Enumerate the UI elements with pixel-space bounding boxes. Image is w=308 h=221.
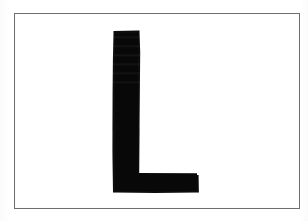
image-canvas — [0, 0, 308, 221]
border-rectangle — [14, 13, 300, 209]
